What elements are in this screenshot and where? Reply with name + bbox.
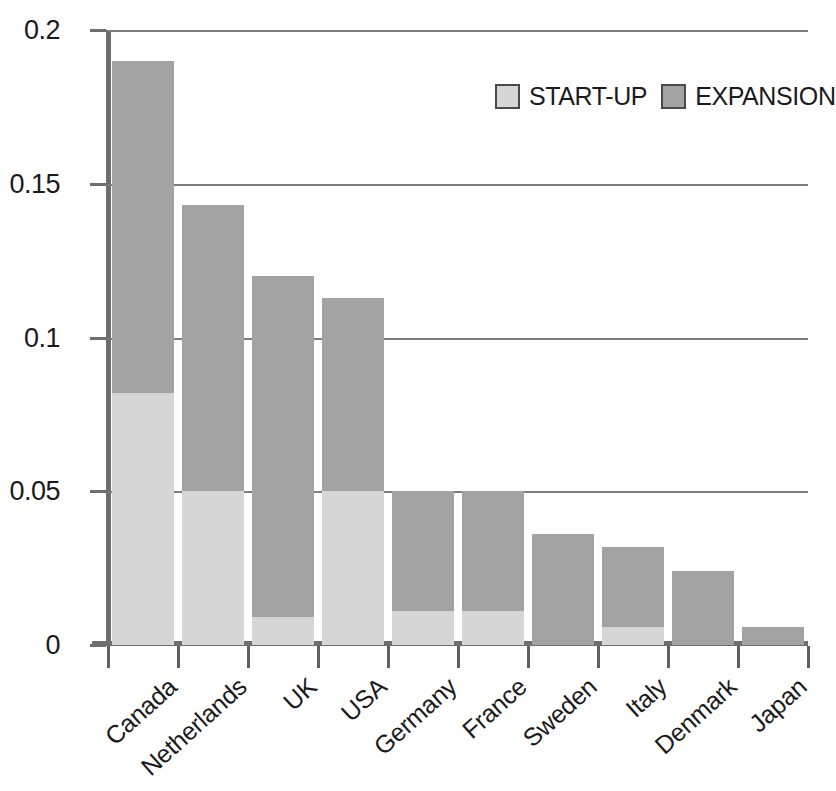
legend-label: EXPANSION <box>695 82 835 111</box>
bar-group[interactable] <box>182 30 244 645</box>
y-axis-tick <box>90 490 106 493</box>
bar-segment-expansion[interactable] <box>112 61 174 393</box>
bars-layer <box>108 30 808 645</box>
bar-segment-startup[interactable] <box>322 491 384 645</box>
x-axis-tick <box>177 646 180 668</box>
bar-segment-startup[interactable] <box>602 627 664 645</box>
bar-segment-startup[interactable] <box>112 393 174 645</box>
y-axis-tick-label: 0 <box>45 632 60 659</box>
bar-segment-startup[interactable] <box>182 491 244 645</box>
bar-segment-startup[interactable] <box>252 617 314 645</box>
y-axis-labels: 00.050.10.150.2 <box>0 30 88 646</box>
bar-segment-expansion[interactable] <box>532 534 594 645</box>
x-axis-tick <box>247 646 250 668</box>
bar-segment-expansion[interactable] <box>322 298 384 492</box>
bar-group[interactable] <box>392 30 454 645</box>
bar-segment-expansion[interactable] <box>462 491 524 611</box>
y-axis-tick <box>90 29 106 32</box>
legend-item[interactable]: START-UP <box>495 82 647 111</box>
x-axis-category-label: Sweden <box>517 672 602 753</box>
y-axis-tick <box>90 337 106 340</box>
y-axis-tick-label: 0.05 <box>9 478 60 505</box>
x-axis-tick <box>107 646 110 668</box>
bar-segment-expansion[interactable] <box>252 276 314 617</box>
x-axis-tick <box>457 646 460 668</box>
legend-item[interactable]: EXPANSION <box>661 82 835 111</box>
bar-segment-expansion[interactable] <box>602 547 664 627</box>
bar-group[interactable] <box>252 30 314 645</box>
legend-swatch-icon <box>495 84 520 109</box>
bar-group[interactable] <box>672 30 734 645</box>
y-axis-tick-label: 0.15 <box>9 170 60 197</box>
bar-group[interactable] <box>112 30 174 645</box>
x-axis-category-label: Japan <box>743 672 812 738</box>
x-axis-category-label: UK <box>277 672 322 716</box>
bar-group[interactable] <box>322 30 384 645</box>
plot-area <box>108 30 808 645</box>
bar-group[interactable] <box>742 30 804 645</box>
x-axis-tick <box>597 646 600 668</box>
x-axis-category-label: Italy <box>620 672 672 723</box>
legend-label: START-UP <box>529 82 647 111</box>
x-axis-tick <box>387 646 390 668</box>
bar-group[interactable] <box>532 30 594 645</box>
legend: START-UPEXPANSION <box>495 82 836 111</box>
bar-segment-startup[interactable] <box>392 611 454 645</box>
y-axis-tick-label: 0.2 <box>24 17 60 44</box>
x-axis-category-label: USA <box>335 672 392 727</box>
x-axis-tick <box>667 646 670 668</box>
x-axis-tick <box>317 646 320 668</box>
legend-swatch-icon <box>661 84 686 109</box>
bar-segment-startup[interactable] <box>462 611 524 645</box>
bar-segment-expansion[interactable] <box>392 491 454 611</box>
bar-group[interactable] <box>602 30 664 645</box>
x-axis-tick <box>737 646 740 668</box>
bar-segment-expansion[interactable] <box>182 205 244 491</box>
x-axis-tick <box>807 646 810 668</box>
bar-segment-expansion[interactable] <box>672 571 734 645</box>
y-axis-tick-label: 0.1 <box>24 324 60 351</box>
y-axis-tick <box>90 183 106 186</box>
bar-segment-expansion[interactable] <box>742 627 804 645</box>
bar-group[interactable] <box>462 30 524 645</box>
x-axis-tick <box>527 646 530 668</box>
